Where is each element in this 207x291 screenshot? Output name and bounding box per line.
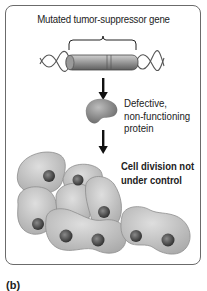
bracket-icon [69, 36, 136, 50]
protein-label: Defective, non-functioning protein [124, 97, 190, 135]
arrow-down-icon [99, 78, 108, 100]
cell-label-line: Cell division not [121, 160, 194, 174]
cell-label-line: under control [121, 174, 194, 188]
gene-bar-icon [66, 55, 138, 70]
protein-icon [86, 99, 118, 124]
protein-label-line: protein [124, 122, 190, 135]
panel-label: (b) [6, 279, 20, 291]
diagram-artwork [0, 0, 207, 291]
protein-label-line: Defective, [124, 97, 190, 110]
protein-label-line: non-functioning [124, 110, 190, 123]
cell-division-label: Cell division not under control [121, 160, 194, 187]
arrow-down-icon [99, 130, 108, 154]
